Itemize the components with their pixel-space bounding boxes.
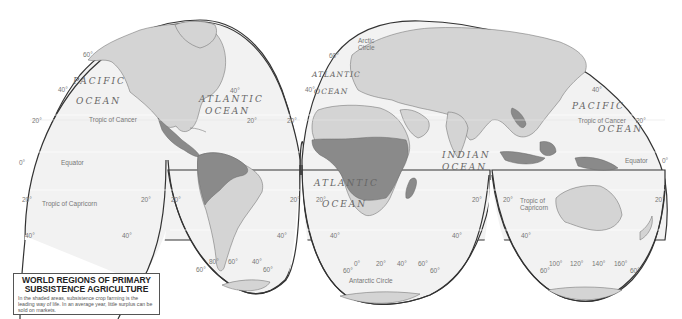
equator-label-east: Equator — [625, 157, 648, 164]
deg-60-as-se: 60° — [630, 267, 640, 274]
legend-description: In the shaded areas, subsistence crop fa… — [18, 295, 155, 314]
deg-20-af: 20° — [376, 260, 386, 267]
deg-100-as: 100° — [549, 260, 562, 267]
deg-40-sw2: 40° — [122, 232, 132, 239]
deg-120-as: 120° — [570, 260, 583, 267]
deg-20-sw: 20° — [22, 196, 32, 203]
arctic-circle-label: Arctic Circle — [358, 37, 375, 51]
deg-60-af-se: 60° — [430, 267, 440, 274]
antarctica-as — [548, 287, 622, 300]
tropic-capricorn-label-west: Tropic of Capricorn — [42, 200, 97, 207]
tropic-capricorn-label-east: Tropic of Capricorn — [520, 197, 548, 211]
ocean-label-atlantic-north: ATLANTIC OCEAN — [199, 94, 264, 116]
tropic-cancer-label-east: Tropic of Cancer — [578, 117, 626, 124]
deg-40-as: 40° — [521, 232, 531, 239]
deg-60-af-sw: 60° — [343, 267, 353, 274]
deg-20-as-e: 20° — [655, 196, 665, 203]
deg-20-af-e: 20° — [472, 196, 482, 203]
deg-20-ne: 20° — [287, 117, 297, 124]
deg-160-as: 160° — [614, 260, 627, 267]
deg-20-sa-w: 20° — [171, 196, 181, 203]
deg-40-af-w: 40° — [330, 232, 340, 239]
deg-140-as: 140° — [592, 260, 605, 267]
deg-40-sw: 40° — [25, 232, 35, 239]
deg-20-ne-pac: 20° — [636, 117, 646, 124]
deg-20-nw: 20° — [32, 117, 42, 124]
deg-20-as-w: 20° — [503, 196, 513, 203]
deg-60-sa-sw: 60° — [196, 266, 206, 273]
deg-20-sa-e: 20° — [290, 196, 300, 203]
equator-label-west: Equator — [61, 159, 84, 166]
deg-40-af: 40° — [397, 260, 407, 267]
deg-20-sw2: 20° — [141, 196, 151, 203]
deg-60-sa-se: 60° — [263, 266, 273, 273]
deg-20-af-w: 20° — [316, 196, 326, 203]
deg-60-sa: 60° — [228, 258, 238, 265]
ocean-label-indian: INDIAN OCEAN — [442, 150, 491, 172]
antarctic-circle-label: Antarctic Circle — [349, 277, 393, 284]
map-legend: WORLD REGIONS OF PRIMARY SUBSISTENCE AGR… — [13, 273, 160, 315]
deg-60-af: 60° — [418, 260, 428, 267]
tropic-cancer-label-west: Tropic of Cancer — [89, 116, 137, 123]
deg-0-af: 0° — [354, 260, 360, 267]
deg-40-nw: 40° — [58, 86, 68, 93]
ocean-label-pacific-west: PACIFIC OCEAN — [73, 76, 126, 106]
legend-title-line2: SUBSISTENCE AGRICULTURE — [18, 285, 155, 294]
deg-0-e: 0° — [662, 157, 668, 164]
deg-40-af-e: 40° — [452, 232, 462, 239]
deg-40-natl: 40° — [230, 87, 240, 94]
deg-60-ne: 60° — [329, 52, 339, 59]
deg-40-ne: 40° — [305, 86, 315, 93]
deg-60-as-sw: 60° — [540, 267, 550, 274]
deg-60-nw: 60° — [83, 51, 93, 58]
ocean-label-atlantic-south: ATLANTIC OCEAN — [314, 178, 379, 209]
deg-80-sa: 80° — [209, 258, 219, 265]
deg-0-w: 0° — [19, 159, 25, 166]
deg-40-ne-pac: 40° — [592, 86, 602, 93]
deg-20-natl: 20° — [247, 117, 257, 124]
deg-40-sa: 40° — [277, 232, 287, 239]
ocean-label-atlantic-ne: ATLANTIC OCEAN — [312, 70, 361, 96]
world-map — [0, 0, 682, 319]
deg-40-sa2: 40° — [252, 258, 262, 265]
